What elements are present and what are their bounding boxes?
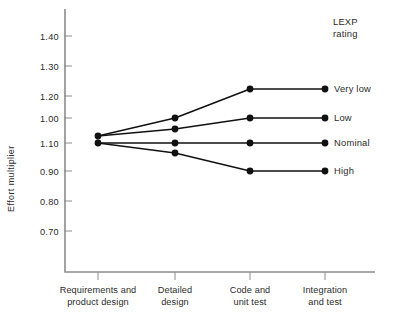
data-point: [322, 140, 329, 147]
y-tick-label: 1.30: [40, 62, 59, 72]
data-point: [172, 150, 179, 157]
x-axis-category-labels: Requirements and product design Detailed…: [60, 285, 348, 307]
series-label-high: High: [334, 165, 354, 176]
data-point: [172, 140, 179, 147]
data-point: [247, 168, 254, 175]
y-tick-label: 1.40: [40, 32, 59, 42]
data-point: [172, 126, 179, 133]
data-point: [322, 168, 329, 175]
series-label-low: Low: [334, 112, 352, 123]
y-axis-tick-labels: 1.40 1.30 1.20 1.00 1.10 0.90 0.80 0.70: [40, 32, 59, 237]
y-axis-title: Effort multiplier: [6, 145, 16, 212]
x-category-label: Code and: [230, 285, 271, 295]
y-tick-label: 1.00: [40, 114, 59, 124]
data-point: [172, 115, 179, 122]
y-tick-label: 1.20: [40, 92, 59, 102]
data-point: [247, 86, 254, 93]
y-tick-label: 0.80: [40, 197, 59, 207]
y-tick-label: 1.10: [40, 139, 59, 149]
series-line-high: [98, 143, 325, 171]
legend-title-line1: LEXP: [333, 16, 358, 27]
series-lines: [98, 89, 325, 171]
x-category-label: Integration: [303, 285, 348, 295]
data-point: [322, 115, 329, 122]
x-axis-ticks: [98, 272, 325, 280]
y-tick-label: 0.90: [40, 167, 59, 177]
data-point: [95, 140, 102, 147]
x-category-label: design: [161, 297, 189, 307]
data-point: [95, 133, 102, 140]
axis-frame: [65, 9, 375, 272]
series-line-low: [98, 118, 325, 136]
x-category-label: product design: [67, 297, 129, 307]
series-label-nominal: Nominal: [334, 137, 370, 148]
y-tick-label: 0.70: [40, 227, 59, 237]
x-category-label: unit test: [233, 297, 266, 307]
legend-title: LEXP rating: [333, 16, 358, 39]
series-label-very-low: Very low: [334, 83, 371, 94]
x-category-label: and test: [308, 297, 342, 307]
data-point: [322, 86, 329, 93]
series-labels: Very low Low Nominal High: [334, 83, 371, 176]
x-category-label: Requirements and: [60, 285, 137, 295]
data-point: [247, 140, 254, 147]
series-line-very-low: [98, 89, 325, 136]
x-category-label: Detailed: [158, 285, 193, 295]
lexp-effort-multiplier-chart: Effort multiplier 1.40 1.30 1.20 1.00 1.…: [0, 0, 394, 321]
legend-title-line2: rating: [333, 28, 358, 39]
data-point: [247, 115, 254, 122]
